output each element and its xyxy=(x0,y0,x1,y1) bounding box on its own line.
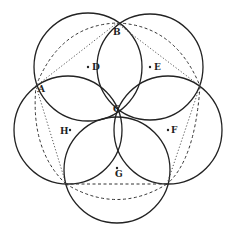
center-h-point xyxy=(69,129,71,131)
label-e: E xyxy=(154,62,161,72)
label-b: B xyxy=(113,27,121,37)
label-h: H xyxy=(60,126,69,136)
geometry-diagram: A B C D E F G H xyxy=(0,0,234,239)
label-d: D xyxy=(92,62,100,72)
label-f: F xyxy=(171,125,178,135)
center-d-point xyxy=(87,66,89,68)
bottom-dashed-arc xyxy=(66,184,167,200)
center-e-point xyxy=(149,66,151,68)
label-g: G xyxy=(115,169,123,179)
label-c: C xyxy=(113,104,120,114)
chord-right-bottom xyxy=(167,86,200,184)
label-a: A xyxy=(37,84,46,94)
center-f-point xyxy=(167,129,169,131)
